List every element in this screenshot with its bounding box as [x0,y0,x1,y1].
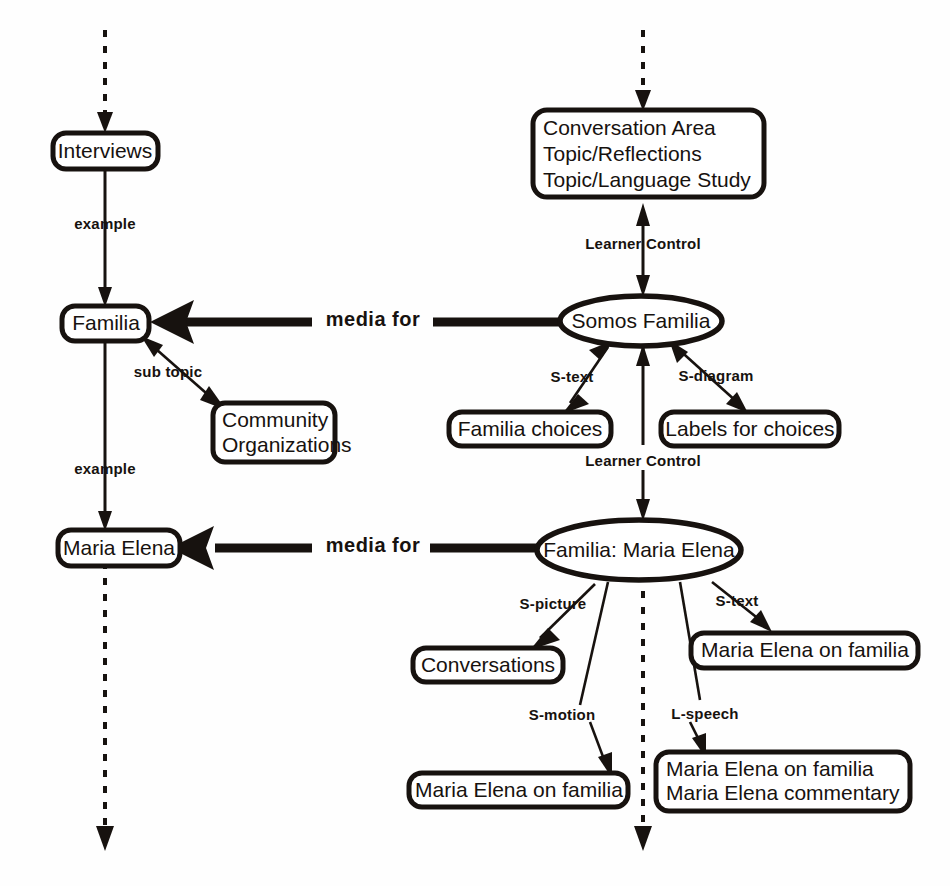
edge-media-for-top: media for [150,300,560,344]
arrow-head-down-left-top [97,112,113,133]
edge-label-s-picture: S-picture [520,595,587,612]
node-somos-familia-label: Somos Familia [572,309,711,332]
edge-label-s-diagram: S-diagram [678,367,753,384]
arrow-head-down-left-bottom [96,826,114,851]
arrow-head-learner-control-top-up [636,203,650,226]
node-conversation-area-label-line1: Conversation Area [543,116,716,139]
edge-familia-to-community-organizations: sub topic [134,336,226,410]
node-familia-choices-label: Familia choices [458,417,603,440]
node-interviews-label: Interviews [58,139,153,162]
edge-s-text-bottom: S-text [712,582,772,632]
node-somos-familia[interactable]: Somos Familia [560,296,722,346]
edge-label-l-speech: L-speech [671,705,738,722]
node-maria-elena-on-familia-text[interactable]: Maria Elena on familia [691,633,918,668]
node-labels-for-choices-label: Labels for choices [665,417,834,440]
edge-label-example-bottom: example [74,460,135,477]
node-familia-choices[interactable]: Familia choices [449,412,611,446]
edge-label-s-text-top: S-text [551,368,594,385]
node-maria-elena-speech[interactable]: Maria Elena on familia Maria Elena comme… [656,752,910,811]
node-conversation-area[interactable]: Conversation Area Topic/Reflections Topi… [533,110,764,197]
node-maria-elena-on-familia-motion-label: Maria Elena on familia [415,778,623,801]
edge-s-text-top: S-text [551,340,614,414]
node-interviews[interactable]: Interviews [53,133,158,169]
node-conversations-label: Conversations [421,653,555,676]
edge-label-sub-topic: sub topic [134,363,202,380]
edge-label-s-motion: S-motion [529,706,596,723]
edge-familia-to-maria-elena: example [74,340,135,531]
node-conversation-area-label-line2: Topic/Reflections [543,142,702,165]
edge-label-learner-control-bottom: Learner Control [585,452,701,469]
node-conversation-area-label-line3: Topic/Language Study [543,168,751,191]
node-maria-elena-on-familia-text-label: Maria Elena on familia [701,638,909,661]
edge-label-media-for-top: media for [326,308,421,330]
node-conversations[interactable]: Conversations [413,648,563,682]
edge-interviews-to-familia: example [74,168,135,307]
edge-s-diagram: S-diagram [669,340,754,413]
node-maria-elena-on-familia-motion[interactable]: Maria Elena on familia [409,773,628,807]
node-maria-elena-label: Maria Elena [63,536,175,559]
node-maria-elena-speech-label-line1: Maria Elena on familia [666,757,874,780]
edge-s-picture: S-picture [520,584,595,650]
node-maria-elena[interactable]: Maria Elena [58,530,180,566]
node-familia-maria-elena-label: Familia: Maria Elena [543,538,735,561]
node-community-organizations-label-line1: Community [222,408,329,431]
node-familia-label: Familia [72,311,140,334]
node-maria-elena-speech-label-line2: Maria Elena commentary [666,781,900,804]
edge-label-example-top: example [74,215,135,232]
edge-media-for-bottom: media for [170,526,537,570]
node-community-organizations-label-line2: Organizations [222,433,352,456]
edge-label-media-for-bottom: media for [326,534,421,556]
arrow-head-down-right-bottom [634,826,652,851]
edge-label-s-text-bottom: S-text [716,592,759,609]
node-familia-maria-elena[interactable]: Familia: Maria Elena [537,520,741,580]
node-community-organizations[interactable]: Community Organizations [213,403,352,462]
node-familia[interactable]: Familia [62,306,149,341]
diagram-canvas: example example sub topic media for [0,0,950,886]
edge-learner-control-top: Learner Control [585,203,701,297]
concept-map-svg: example example sub topic media for [0,0,950,886]
node-labels-for-choices[interactable]: Labels for choices [661,412,839,446]
edge-label-learner-control-top: Learner Control [585,235,701,252]
